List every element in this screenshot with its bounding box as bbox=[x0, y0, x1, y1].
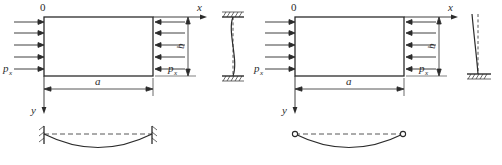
load-label-left-subscript: x bbox=[259, 69, 264, 77]
dimension-a-label: a bbox=[95, 75, 101, 87]
beam-left-pin-support bbox=[292, 131, 297, 136]
load-label-left-subscript: x bbox=[8, 69, 13, 77]
dimension-b-label: b bbox=[425, 43, 437, 49]
column-sketch-fixed-free bbox=[467, 14, 491, 79]
plate-outline bbox=[44, 17, 153, 76]
column-top-hatching bbox=[222, 12, 244, 17]
load-label-left-symbol: p bbox=[2, 62, 9, 74]
dimension-a-label: a bbox=[346, 75, 352, 87]
y-axis-label: y bbox=[281, 104, 287, 116]
load-label-right: p x bbox=[418, 62, 429, 77]
diagram-root: x y 0 p x p x b bbox=[0, 0, 502, 165]
dimension-b bbox=[186, 17, 190, 76]
y-axis-arrowhead bbox=[293, 107, 298, 114]
load-label-right-symbol: p bbox=[167, 62, 174, 74]
left-load-arrows bbox=[265, 20, 295, 72]
beam-right-hatching bbox=[152, 126, 157, 142]
column-sketch-fixed-fixed bbox=[222, 12, 244, 81]
beam-left-hatching bbox=[39, 126, 44, 142]
column-buckled-shape bbox=[472, 14, 478, 74]
load-label-left: p x bbox=[253, 62, 264, 77]
origin-label: 0 bbox=[291, 1, 297, 13]
beam-sketch-pinned-pinned bbox=[292, 131, 405, 147]
x-axis-label: x bbox=[447, 1, 453, 13]
beam-sketch-fixed-fixed bbox=[39, 126, 157, 148]
load-label-right-symbol: p bbox=[418, 62, 425, 74]
load-label-left: p x bbox=[2, 62, 13, 77]
load-label-right: p x bbox=[167, 62, 178, 77]
beam-right-pin-support bbox=[400, 131, 405, 136]
x-axis-label: x bbox=[196, 1, 202, 13]
panel-fixed-fixed: x y 0 p x p x b bbox=[0, 0, 251, 165]
column-bottom-hatching bbox=[222, 76, 244, 81]
column-bottom-hatching bbox=[467, 74, 491, 79]
left-load-arrows bbox=[14, 20, 44, 72]
load-label-left-symbol: p bbox=[253, 62, 260, 74]
x-axis-arrowhead bbox=[200, 15, 207, 20]
panel-fixed-free: x y 0 p x p x b bbox=[251, 0, 502, 165]
dimension-b bbox=[437, 17, 441, 76]
beam-buckled-shape bbox=[44, 134, 152, 148]
dimension-b-label: b bbox=[174, 43, 186, 49]
y-axis-arrowhead bbox=[42, 107, 47, 114]
origin-label: 0 bbox=[40, 1, 46, 13]
plate-outline bbox=[295, 17, 404, 76]
x-axis-arrowhead bbox=[451, 15, 458, 20]
y-axis-label: y bbox=[30, 104, 36, 116]
beam-buckled-shape bbox=[295, 134, 403, 148]
